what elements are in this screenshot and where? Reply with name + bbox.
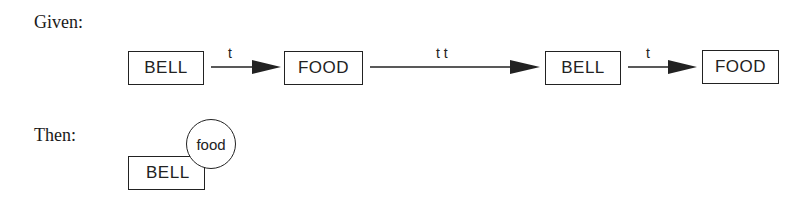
arrow-2 xyxy=(370,60,540,74)
arrows-layer xyxy=(0,0,812,202)
then-bell-text: BELL xyxy=(146,163,190,183)
arrow-3 xyxy=(628,60,697,74)
food-circle: food xyxy=(186,119,236,169)
arrow-1 xyxy=(211,60,281,74)
then-label: Then: xyxy=(34,125,76,146)
